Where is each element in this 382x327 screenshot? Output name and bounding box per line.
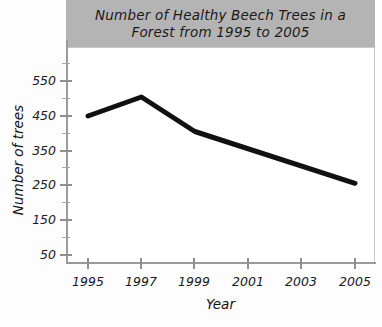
x-tick-2001 bbox=[247, 258, 249, 269]
y-axis-line bbox=[66, 40, 68, 264]
chart-title-line-1: Number of Healthy Beech Trees in a bbox=[95, 7, 346, 24]
x-axis-title: Year bbox=[66, 296, 375, 312]
x-tick-label-2005: 2005 bbox=[327, 274, 382, 289]
chart-title-band: Number of Healthy Beech Trees in a Fores… bbox=[66, 0, 375, 47]
x-tick-label-2001: 2001 bbox=[220, 274, 276, 289]
x-tick-1999 bbox=[193, 258, 195, 269]
y-tick-label-50: 50 bbox=[10, 247, 56, 262]
x-tick-2005 bbox=[354, 258, 356, 269]
y-tick-minor-400 bbox=[62, 133, 70, 134]
x-tick-label-2003: 2003 bbox=[273, 274, 329, 289]
y-tick-550 bbox=[60, 80, 72, 82]
y-axis-title: Number of trees bbox=[10, 80, 26, 240]
chart-title-line-2: Forest from 1995 to 2005 bbox=[131, 24, 309, 41]
x-tick-2003 bbox=[300, 258, 302, 269]
y-tick-350 bbox=[60, 150, 72, 152]
y-tick-minor-100 bbox=[62, 237, 70, 238]
y-tick-minor-200 bbox=[62, 202, 70, 203]
y-tick-150 bbox=[60, 219, 72, 221]
plot-area bbox=[66, 47, 375, 263]
y-tick-250 bbox=[60, 184, 72, 186]
x-tick-label-1997: 1997 bbox=[113, 274, 169, 289]
x-tick-1997 bbox=[140, 258, 142, 269]
y-tick-450 bbox=[60, 115, 72, 117]
y-tick-minor-300 bbox=[62, 167, 70, 168]
x-axis-line bbox=[66, 262, 376, 264]
x-tick-label-1995: 1995 bbox=[60, 274, 116, 289]
y-tick-minor-600 bbox=[62, 63, 70, 64]
x-tick-1995 bbox=[87, 258, 89, 269]
y-tick-minor-500 bbox=[62, 98, 70, 99]
x-tick-label-1999: 1999 bbox=[166, 274, 222, 289]
y-tick-50 bbox=[60, 254, 72, 256]
chart-figure: Number of Healthy Beech Trees in a Fores… bbox=[0, 0, 382, 327]
